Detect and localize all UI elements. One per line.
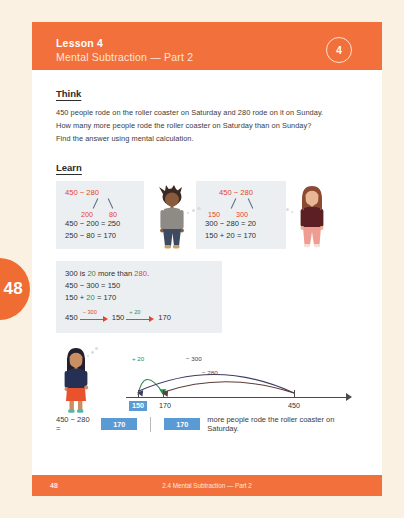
- answer-sentence-text: more people rode the roller coaster on S…: [207, 415, 361, 433]
- m3-l1-e: .: [147, 269, 149, 278]
- chain-arrow-2-label: + 20: [129, 309, 140, 315]
- answer-sentence-blank[interactable]: 170: [164, 418, 200, 430]
- dot: [91, 351, 94, 354]
- textbook-page: 48 Lesson 4 Mental Subtraction — Part 2 …: [0, 0, 404, 518]
- header-titles: Lesson 4 Mental Subtraction — Part 2: [56, 37, 193, 63]
- chain-arrow-2: + 20: [126, 313, 156, 323]
- chain-mid: 150: [112, 312, 125, 324]
- method-3-line-2: 450 − 300 = 150: [65, 280, 213, 292]
- number-line-axis: [126, 397, 348, 398]
- number-line-axis-arrowhead: [346, 393, 352, 401]
- footer-lesson-title: 2.4 Mental Subtraction — Part 2: [32, 482, 382, 489]
- tick-label-450: 450: [288, 401, 300, 410]
- dot: [192, 209, 195, 212]
- bond-part-left: 150: [208, 210, 220, 219]
- lesson-number-badge: 4: [326, 37, 352, 63]
- student-boy-illustration: [152, 185, 192, 253]
- bond-part-right: 80: [109, 210, 117, 219]
- method-3-chain: 450 − 300 150 + 20 170: [65, 312, 213, 324]
- think-line: 450 people rode on the roller coaster on…: [56, 107, 358, 120]
- bond-total: 450 − 280: [219, 188, 277, 197]
- lesson-title: Mental Subtraction — Part 2: [56, 51, 193, 63]
- arrow-shaft: [126, 319, 150, 320]
- m3-l3-b: 20: [86, 293, 94, 302]
- think-line: How many more people rode the roller coa…: [56, 120, 358, 133]
- think-line: Find the answer using mental calculation…: [56, 133, 358, 146]
- lesson-label: Lesson 4: [56, 37, 193, 49]
- bond-children: 200 80: [65, 210, 135, 219]
- dot: [187, 212, 189, 214]
- method-2-line-2: 150 + 20 = 170: [205, 230, 277, 242]
- m3-l1-b: 20: [87, 269, 95, 278]
- tick-label-150: 150: [129, 401, 147, 411]
- m3-l3-a: 150 +: [65, 293, 86, 302]
- bond-legs: [65, 197, 135, 210]
- chain-start: 450: [65, 312, 78, 324]
- think-heading: Think: [56, 88, 358, 99]
- bond-leg-right: [248, 198, 254, 208]
- method-1-line-1: 450 − 200 = 250: [65, 218, 135, 230]
- tick-label-170: 170: [159, 401, 171, 410]
- arc-label-plus-20: + 20: [132, 355, 144, 362]
- tick-150: [138, 390, 139, 398]
- number-line-diagram: + 20 − 300 − 280 150 170 450: [126, 349, 382, 421]
- dot: [95, 347, 98, 350]
- answer-equation-blank[interactable]: 170: [101, 418, 137, 430]
- arrow-head: [149, 316, 154, 322]
- m3-l1-c: more than: [96, 269, 134, 278]
- m3-l3-c: = 170: [95, 293, 116, 302]
- bond-part-right: 300: [236, 210, 248, 219]
- thought-dots: [87, 347, 99, 359]
- method-3-line-3: 150 + 20 = 170: [65, 292, 213, 304]
- bond-part-left: 200: [81, 210, 93, 219]
- bond-leg-left: [231, 198, 237, 208]
- method-box-1: 450 − 280 200 80 450 − 200 = 250 250 − 8…: [56, 181, 144, 249]
- method-box-3: 300 is 20 more than 280. 450 − 300 = 150…: [56, 261, 222, 333]
- number-bond-2: 450 − 280 150 300: [205, 188, 277, 218]
- number-bond-1: 450 − 280 200 80: [65, 188, 135, 218]
- dot: [197, 207, 201, 211]
- answer-row: 450 − 280 = 170 170 more people rode the…: [56, 415, 361, 433]
- answer-divider: [150, 417, 151, 432]
- page-number-tab-label: 48: [3, 279, 23, 299]
- method-box-2: 450 − 280 150 300 300 − 280 = 20 150 + 2…: [196, 181, 286, 249]
- tick-170: [163, 390, 164, 398]
- thought-dots: [282, 207, 294, 215]
- learn-heading: Learn: [56, 162, 358, 173]
- m3-l1-a: 300 is: [65, 269, 87, 278]
- page-number-tab: 48: [0, 258, 30, 320]
- chain-arrow-1-label: − 300: [83, 309, 97, 315]
- bond-total: 450 − 280: [65, 188, 135, 197]
- learn-diagrams: 450 − 280 200 80 450 − 200 = 250 250 − 8…: [56, 181, 358, 431]
- dot: [87, 355, 89, 357]
- arc-label-minus-280: − 280: [202, 369, 218, 376]
- answer-equation-label: 450 − 280 =: [56, 415, 94, 433]
- tick-450: [294, 390, 295, 398]
- page-footer: 48 2.4 Mental Subtraction — Part 2: [32, 475, 382, 496]
- page-sheet: Lesson 4 Mental Subtraction — Part 2 4 T…: [32, 22, 382, 496]
- bond-leg-right: [108, 198, 114, 208]
- chain-end: 170: [158, 312, 171, 324]
- think-body: 450 people rode on the roller coaster on…: [56, 107, 358, 146]
- dot: [291, 211, 293, 213]
- bond-leg-left: [93, 198, 99, 208]
- bond-legs: [205, 197, 277, 210]
- m3-l1-d: 280: [134, 269, 147, 278]
- lesson-header: Lesson 4 Mental Subtraction — Part 2 4: [32, 22, 382, 70]
- thought-dots: [187, 207, 201, 217]
- student-girl-illustration: [294, 183, 330, 253]
- arrow-head: [103, 316, 108, 322]
- method-3-line-1: 300 is 20 more than 280.: [65, 268, 213, 280]
- method-1-line-2: 250 − 80 = 170: [65, 230, 135, 242]
- arrow-shaft: [80, 319, 104, 320]
- dot: [286, 208, 289, 211]
- arc-label-minus-300: − 300: [186, 355, 202, 362]
- page-content: Think 450 people rode on the roller coas…: [32, 70, 382, 431]
- bond-children: 150 300: [205, 210, 277, 219]
- method-2-line-1: 300 − 280 = 20: [205, 218, 277, 230]
- chain-arrow-1: − 300: [80, 313, 110, 323]
